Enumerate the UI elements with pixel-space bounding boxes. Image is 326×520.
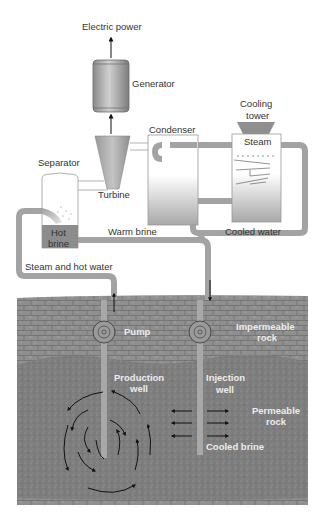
- label-tower: tower: [246, 110, 269, 121]
- label-cooled-water: Cooled water: [225, 226, 281, 237]
- label-impermeable-rock: rock: [257, 332, 278, 343]
- label-warm-brine: Warm brine: [108, 226, 157, 237]
- label-generator: Generator: [132, 78, 175, 89]
- label-electric-power: Electric power: [82, 21, 142, 32]
- condenser: [130, 135, 198, 225]
- label-brine: brine: [48, 238, 69, 249]
- label-cooling: Cooling: [240, 98, 272, 109]
- label-production: Production: [114, 372, 164, 383]
- production-pump: [93, 321, 115, 343]
- label-separator: Separator: [38, 157, 80, 168]
- label-hot: Hot: [51, 227, 66, 238]
- label-cooled-brine: Cooled brine: [206, 441, 264, 452]
- injection-pump: [189, 321, 211, 343]
- label-injection: Injection: [206, 372, 245, 383]
- label-impermeable: Impermeable: [236, 321, 295, 332]
- generator: [93, 60, 129, 112]
- cooled-water-branch: [199, 233, 202, 240]
- cooling-tower-funnel: [237, 122, 275, 134]
- label-turbine: Turbine: [98, 189, 130, 200]
- label-pump: Pump: [124, 326, 151, 337]
- label-condenser: Condenser: [149, 124, 195, 135]
- label-permeable-rock: rock: [266, 416, 287, 427]
- label-permeable: Permeable: [252, 405, 300, 416]
- label-production-well: well: [129, 383, 148, 394]
- label-steam-hot-water: Steam and hot water: [25, 261, 113, 272]
- geothermal-diagram: Electric power Generator Cooling tower C…: [0, 0, 326, 520]
- label-steam: Steam: [244, 136, 272, 147]
- label-injection-well: well: [215, 384, 234, 395]
